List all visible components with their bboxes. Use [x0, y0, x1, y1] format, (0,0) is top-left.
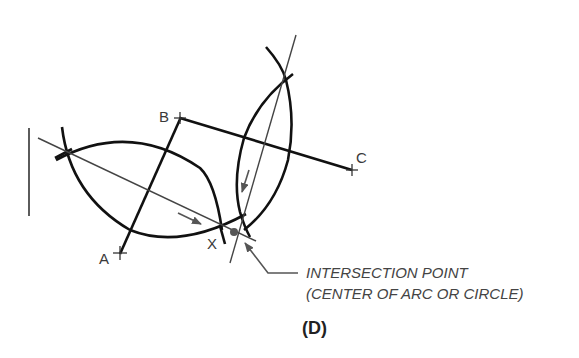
- point-a-marker: [113, 246, 127, 260]
- arrow-along-ab-bisector: [178, 213, 201, 224]
- label-x: X: [207, 235, 217, 252]
- arc-from-b-lower: [62, 127, 246, 237]
- label-c: C: [356, 149, 367, 166]
- segment-ab: [120, 117, 181, 254]
- label-b: B: [159, 108, 169, 125]
- callout-leader: [245, 243, 298, 273]
- point-b-marker: [174, 112, 186, 124]
- label-a: A: [99, 250, 109, 267]
- segment-bc: [180, 118, 352, 170]
- intersection-point-dot: [230, 228, 238, 236]
- arrow-along-bc-bisector: [242, 170, 249, 192]
- construction-diagram: A B C X INTERSECTION POINT (CENTER OF AR…: [0, 0, 579, 358]
- figure-caption: (D): [302, 318, 327, 338]
- bisector-ab: [38, 138, 256, 241]
- callout-line-2: (CENTER OF ARC OR CIRCLE): [306, 285, 524, 302]
- callout-line-1: INTERSECTION POINT: [306, 264, 470, 281]
